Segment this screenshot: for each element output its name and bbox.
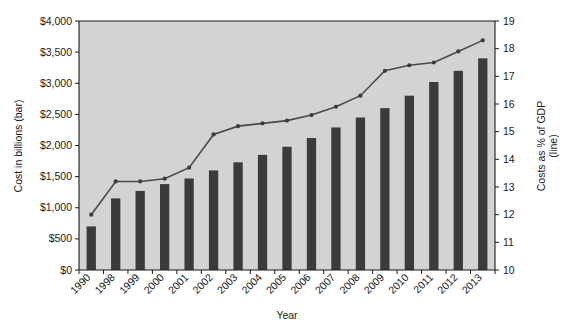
x-tick-label-2008: 2008	[337, 271, 362, 296]
right-tick-label: 13	[503, 181, 515, 193]
right-tick-label: 12	[503, 208, 515, 220]
right-tick-label: 10	[503, 264, 515, 276]
line-marker-2007	[334, 105, 338, 109]
bar-2005	[282, 147, 291, 270]
bar-2006	[307, 138, 316, 270]
right-tick-label: 18	[503, 42, 515, 54]
x-axis-ticks: 1990199819992000200120022003200420052006…	[68, 270, 495, 296]
left-tick-label: $2,500	[40, 108, 72, 120]
x-tick-label-2013: 2013	[459, 271, 484, 296]
bar-1999	[136, 191, 145, 270]
line-marker-1990	[89, 213, 93, 217]
y-axis-right-title: Costs as % of GDP	[535, 101, 547, 191]
line-marker-2002	[211, 132, 215, 136]
line-marker-2011	[432, 60, 436, 64]
bar-2011	[429, 82, 438, 270]
x-tick-label-2011: 2011	[411, 271, 436, 296]
bar-2007	[331, 127, 340, 270]
right-tick-label: 11	[503, 236, 514, 248]
bar-2010	[405, 96, 414, 270]
y-axis-right-title-sub: (line)	[547, 134, 559, 157]
chart-container: $0$500$1,000$1,500$2,000$2,500$3,000$3,5…	[0, 0, 568, 327]
x-tick-label-2001: 2001	[166, 271, 191, 296]
line-marker-2001	[187, 166, 191, 170]
x-tick-label-2010: 2010	[386, 271, 411, 296]
line-marker-2006	[309, 113, 313, 117]
line-marker-2003	[236, 124, 240, 128]
x-tick-label-2007: 2007	[312, 271, 337, 296]
bar-2002	[209, 170, 218, 270]
x-axis-title: Year	[276, 309, 298, 321]
x-tick-label-2005: 2005	[263, 271, 288, 296]
x-tick-label-1998: 1998	[92, 271, 117, 296]
x-tick-label-2012: 2012	[435, 271, 460, 296]
bar-2008	[356, 117, 365, 270]
line-marker-2010	[407, 63, 411, 67]
x-tick-label-2006: 2006	[288, 271, 313, 296]
line-marker-1999	[138, 179, 142, 183]
bar-1998	[111, 198, 120, 270]
right-tick-label: 14	[503, 153, 515, 165]
line-marker-2012	[456, 49, 460, 53]
line-marker-2008	[358, 94, 362, 98]
right-tick-label: 17	[503, 70, 515, 82]
x-tick-label-2003: 2003	[214, 271, 239, 296]
bar-2003	[233, 162, 242, 270]
line-marker-2013	[481, 38, 485, 42]
health-cost-chart: $0$500$1,000$1,500$2,000$2,500$3,000$3,5…	[0, 0, 568, 327]
left-tick-label: $1,500	[40, 170, 72, 182]
x-tick-label-2009: 2009	[361, 271, 386, 296]
x-tick-label-2002: 2002	[190, 271, 215, 296]
left-tick-label: $4,000	[40, 15, 72, 27]
right-tick-label: 16	[503, 98, 515, 110]
left-tick-label: $3,000	[40, 77, 72, 89]
y-axis-left-title: Cost in billions (bar)	[12, 100, 24, 193]
left-tick-label: $2,000	[40, 139, 72, 151]
line-marker-2004	[260, 121, 264, 125]
bar-2000	[160, 184, 169, 270]
line-marker-1998	[114, 179, 118, 183]
bar-2013	[478, 58, 487, 270]
right-tick-label: 19	[503, 15, 515, 27]
left-tick-label: $500	[49, 232, 73, 244]
right-axis-ticks: 10111213141516171819	[495, 15, 515, 276]
x-tick-label-2000: 2000	[141, 271, 166, 296]
left-tick-label: $0	[60, 264, 72, 276]
bar-2004	[258, 155, 267, 270]
line-marker-2000	[163, 177, 167, 181]
line-marker-2005	[285, 119, 289, 123]
bar-2009	[380, 108, 389, 270]
left-tick-label: $1,000	[40, 201, 72, 213]
line-marker-2009	[383, 69, 387, 73]
x-tick-label-1999: 1999	[117, 271, 142, 296]
bar-2001	[184, 178, 193, 270]
bar-2012	[454, 71, 463, 270]
left-tick-label: $3,500	[40, 46, 72, 58]
right-tick-label: 15	[503, 125, 515, 137]
x-tick-label-2004: 2004	[239, 271, 264, 296]
left-axis-ticks: $0$500$1,000$1,500$2,000$2,500$3,000$3,5…	[40, 15, 79, 276]
bar-1990	[87, 226, 96, 270]
